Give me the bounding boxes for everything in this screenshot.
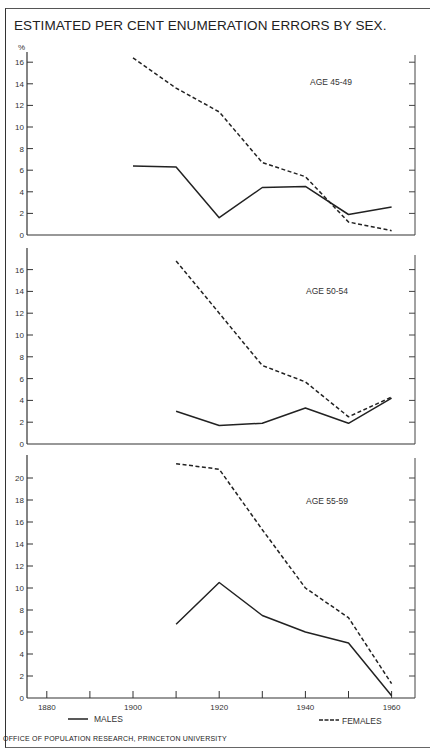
- legend: MALESFEMALES: [68, 714, 382, 726]
- y-tick-label: 12: [15, 101, 24, 110]
- panel-age-label: AGE 55-59: [306, 496, 348, 506]
- y-tick-label: 16: [15, 58, 24, 67]
- panel-age-45-49: 0246810121416AGE 45-49: [15, 52, 415, 240]
- y-tick-label: 8: [20, 606, 25, 615]
- panel-age-55-59: 0246810121416182018801900192019401960AGE…: [15, 455, 415, 712]
- credit-text: OFFICE OF POPULATION RESEARCH, PRINCETON…: [3, 735, 227, 742]
- y-tick-label: 12: [15, 309, 24, 318]
- y-tick-label: 4: [20, 188, 25, 197]
- x-tick-label: 1920: [210, 703, 228, 712]
- y-tick-label: 4: [20, 396, 25, 405]
- y-tick-label: 12: [15, 562, 24, 571]
- y-tick-label: 0: [20, 440, 25, 449]
- y-tick-label: 10: [15, 584, 24, 593]
- females-line: [176, 261, 392, 417]
- panel-age-label: AGE 50-54: [306, 286, 348, 296]
- y-tick-label: 4: [20, 650, 25, 659]
- y-tick-label: 2: [20, 418, 25, 427]
- y-tick-label: 16: [15, 266, 24, 275]
- x-tick-label: 1960: [383, 703, 401, 712]
- males-line: [176, 583, 392, 696]
- y-tick-label: 8: [20, 145, 25, 154]
- legend-males-label: MALES: [94, 714, 123, 724]
- y-tick-label: 14: [15, 287, 24, 296]
- y-tick-label: 20: [15, 474, 24, 483]
- y-tick-label: 18: [15, 496, 24, 505]
- panel-age-50-54: 0246810121416AGE 50-54: [15, 248, 415, 449]
- y-tick-label: 16: [15, 518, 24, 527]
- x-tick-label: 1900: [124, 703, 142, 712]
- panel-age-label: AGE 45-49: [310, 77, 352, 87]
- females-line: [176, 464, 392, 684]
- y-tick-label: 2: [20, 672, 25, 681]
- y-tick-label: 0: [20, 694, 25, 703]
- y-tick-label: 6: [20, 375, 25, 384]
- females-line: [133, 58, 392, 231]
- y-tick-label: 14: [15, 80, 24, 89]
- y-tick-label: 6: [20, 166, 25, 175]
- x-tick-label: 1940: [297, 703, 315, 712]
- x-tick-label: 1880: [38, 703, 56, 712]
- y-tick-label: 2: [20, 209, 25, 218]
- y-tick-label: 10: [15, 331, 24, 340]
- y-unit-label: %: [18, 43, 25, 52]
- y-tick-label: 10: [15, 123, 24, 132]
- y-tick-label: 8: [20, 353, 25, 362]
- y-tick-label: 14: [15, 540, 24, 549]
- males-line: [133, 166, 392, 218]
- legend-females-label: FEMALES: [342, 716, 382, 726]
- y-tick-label: 6: [20, 628, 25, 637]
- y-tick-label: 0: [20, 231, 25, 240]
